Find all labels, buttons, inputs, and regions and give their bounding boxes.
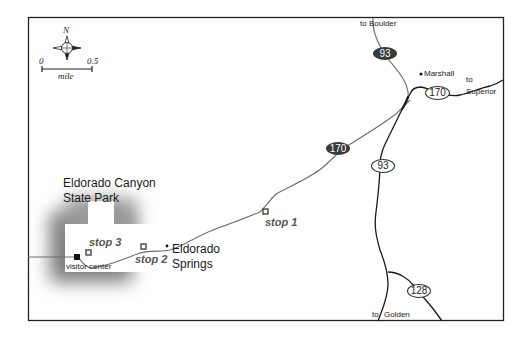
eldorado-springs-label-line1: Eldorado xyxy=(172,243,220,255)
scale-end-label: 0.5 xyxy=(87,57,98,66)
route-shield-170-main: 170 xyxy=(326,142,350,155)
route-shield-128: 128 xyxy=(407,284,431,298)
to-boulder-label: to Boulder xyxy=(360,20,396,28)
marshall-label: Marshall xyxy=(424,70,454,78)
to-golden-to-label: to xyxy=(372,311,379,319)
stop-2-label: stop 2 xyxy=(135,254,167,265)
park-name-line1: Eldorado Canyon xyxy=(63,177,156,189)
stop-2-marker-icon[interactable] xyxy=(141,244,146,249)
road-hwy93-north xyxy=(373,18,409,108)
park-name-line2: State Park xyxy=(63,192,119,204)
to-superior-label-line2: Superior xyxy=(466,88,496,96)
to-superior-label-line1: to xyxy=(466,76,473,84)
visitor-center-label: visitor center xyxy=(66,263,111,271)
stop-1-marker-icon[interactable] xyxy=(263,209,268,214)
eldorado-springs-label-line2: Springs xyxy=(172,258,213,270)
marshall-dot-icon xyxy=(420,73,423,76)
to-golden-label: Golden xyxy=(384,311,410,319)
route-shield-93-south: 93 xyxy=(371,159,395,173)
route-shield-170-east: 170 xyxy=(425,86,450,100)
route-shield-93-north: 93 xyxy=(373,47,397,60)
compass-rose-icon xyxy=(53,36,81,60)
scale-unit-label: mile xyxy=(58,72,74,81)
scale-start-label: 0 xyxy=(39,57,44,66)
map-canvas xyxy=(0,0,519,339)
visitor-center-marker-icon[interactable] xyxy=(74,254,80,260)
stop-1-label: stop 1 xyxy=(265,217,297,228)
eldorado-springs-dot-icon xyxy=(166,245,169,248)
stop-3-label: stop 3 xyxy=(89,237,121,248)
road-hwy93-south xyxy=(375,96,408,321)
compass-north-label: N xyxy=(63,26,69,35)
stop-3-marker-icon[interactable] xyxy=(86,250,91,255)
